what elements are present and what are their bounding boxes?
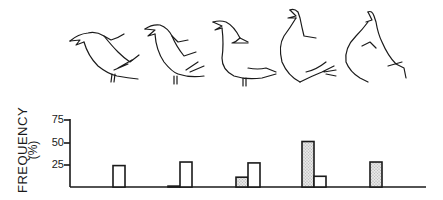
bars bbox=[113, 142, 382, 187]
bar-stippled-3 bbox=[236, 177, 248, 187]
bar-open-4 bbox=[314, 176, 326, 187]
bar-open-3 bbox=[248, 163, 260, 187]
bar-stippled-4 bbox=[302, 142, 314, 187]
bar-plot bbox=[0, 0, 443, 200]
bar-open-1 bbox=[113, 166, 125, 187]
figure: FREQUENCY (%) 75 50 25 bbox=[0, 0, 443, 200]
bar-stippled-5 bbox=[370, 162, 382, 187]
bar-stippled-2 bbox=[168, 186, 180, 187]
bar-open-2 bbox=[180, 162, 192, 187]
